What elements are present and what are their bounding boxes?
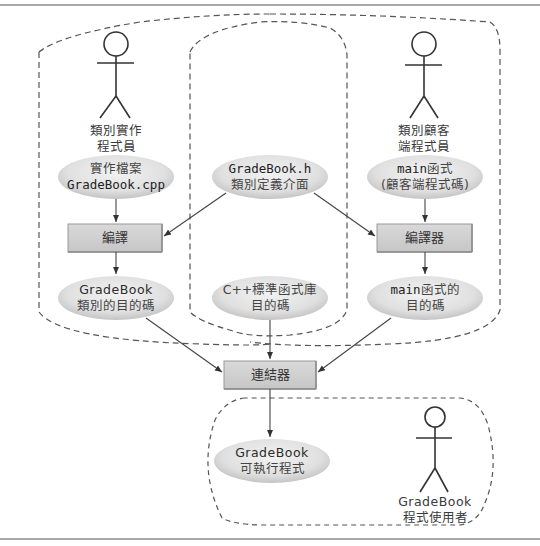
compile-link-diagram: 類別實作 程式員 類別顧客 端程式員 GradeBook 程式使用者 實作檔案 … [0, 0, 540, 546]
implementer-label-line2: 程式員 [76, 139, 156, 155]
implementer-label-line1: 類別實作 [76, 123, 156, 139]
client-label: 類別顧客 端程式員 [384, 123, 464, 155]
implementer-group-outline [39, 14, 270, 52]
main-obj-line1: main函式的 [367, 282, 483, 298]
implementer-label: 類別實作 程式員 [76, 123, 156, 155]
arrow-header-to-compile-right [314, 193, 375, 236]
implementer-actor-icon [97, 32, 134, 118]
stdlib-obj-line2: 目的碼 [212, 298, 328, 314]
executable-node: GradeBook 可執行程式 [214, 445, 330, 477]
user-label-line2: 程式使用者 [385, 510, 485, 526]
client-label-line1: 類別顧客 [384, 123, 464, 139]
main-obj-node: main函式的 目的碼 [367, 282, 483, 314]
main-file-line1: main函式 [367, 161, 483, 177]
executable-line1: GradeBook [214, 445, 330, 461]
main-file-node: main函式 (顧客端程式碼) [367, 161, 483, 193]
stdlib-obj-line1: C++標準函式庫 [212, 282, 328, 298]
stdlib-obj-node: C++標準函式庫 目的碼 [212, 282, 328, 314]
header-file-line1: GradeBook.h [212, 161, 328, 177]
arrow-gbobj-to-linker [146, 318, 222, 372]
gradebook-obj-node: GradeBook 類別的目的碼 [58, 282, 174, 314]
client-actor-icon [405, 32, 442, 118]
compile-right-label: 編譯器 [377, 230, 472, 246]
compile-left-label: 編譯 [68, 230, 162, 246]
client-label-line2: 端程式員 [384, 139, 464, 155]
impl-file-node: 實作檔案 GradeBook.cpp [58, 161, 174, 193]
main-obj-line2: 目的碼 [367, 298, 483, 314]
user-label-line1: GradeBook [385, 494, 485, 510]
arrow-header-to-compile-left [164, 193, 226, 236]
executable-line2: 可執行程式 [214, 461, 330, 477]
main-file-zh: 函式 [427, 161, 453, 176]
gradebook-obj-line2: 類別的目的碼 [58, 298, 174, 314]
header-file-line2: 類別定義介面 [212, 177, 328, 193]
main-obj-code: main [390, 282, 420, 297]
impl-file-line2: GradeBook.cpp [58, 177, 174, 193]
impl-file-line1: 實作檔案 [58, 161, 174, 177]
main-file-code: main [397, 161, 427, 176]
main-file-line2: (顧客端程式碼) [367, 177, 483, 193]
user-label: GradeBook 程式使用者 [385, 494, 485, 526]
gradebook-obj-line1: GradeBook [58, 282, 174, 298]
user-actor-icon [416, 407, 452, 492]
linker-label: 連結器 [224, 367, 316, 383]
header-file-node: GradeBook.h 類別定義介面 [212, 161, 328, 193]
main-obj-zh: 函式的 [421, 282, 460, 297]
